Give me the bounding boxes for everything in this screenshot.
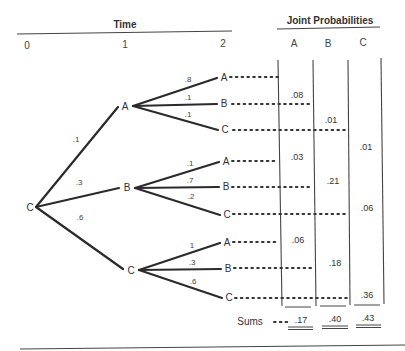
time-header-rule xyxy=(17,31,232,34)
stage2-c-prob-b: .3 xyxy=(189,258,196,267)
column-divider-bc xyxy=(348,60,350,305)
time-period-1: 1 xyxy=(122,39,128,50)
sum-b: .40 xyxy=(329,314,342,324)
branch-a-to-b xyxy=(133,104,217,106)
time-period-2: 2 xyxy=(220,38,226,49)
column-header-c: C xyxy=(359,37,366,48)
stage2-c-node-b: B xyxy=(225,263,232,274)
joint-bb: .21 xyxy=(327,176,340,186)
sum-a: .17 xyxy=(295,315,308,325)
branch-b-to-b xyxy=(135,187,219,188)
joint-ba: .03 xyxy=(291,152,304,162)
branch-a-to-a xyxy=(133,78,217,106)
joint-ca: .06 xyxy=(292,235,305,245)
column-header-b: B xyxy=(325,38,332,49)
branch-c-to-c xyxy=(139,270,222,298)
time-header: Time xyxy=(113,19,137,30)
time-period-0: 0 xyxy=(24,40,30,51)
joint-probabilities-header: Joint Probabilities xyxy=(287,15,374,26)
stage2-b-node-c: C xyxy=(223,209,230,220)
stage2-b-node-b: B xyxy=(223,181,230,192)
stage2-a-node-c: C xyxy=(221,124,228,135)
joint-cc: .36 xyxy=(361,290,374,300)
stage1-prob-c: .6 xyxy=(77,213,84,222)
stage2-b-prob-a: .1 xyxy=(187,159,194,168)
stage1-node-b: B xyxy=(124,182,131,193)
branch-c-to-a xyxy=(139,243,220,270)
stage2-b-prob-b: .7 xyxy=(187,176,194,185)
joint-header-rule xyxy=(277,27,380,29)
stage2-a-node-b: B xyxy=(221,98,228,109)
sums-label: Sums xyxy=(237,316,263,327)
stage2-c-prob-a: 1 xyxy=(190,241,195,250)
stage1-prob-b: .3 xyxy=(76,178,83,187)
joint-ac: .01 xyxy=(360,142,373,152)
column-divider-a-left xyxy=(278,60,282,306)
stage2-a-prob-b: .1 xyxy=(185,93,192,102)
stage2-a-prob-c: .1 xyxy=(185,110,192,119)
branch-b-to-c xyxy=(135,188,220,215)
stage2-b-node-a: A xyxy=(223,156,230,167)
stage2-a-node-a: A xyxy=(221,72,228,83)
stage2-c-node-c: C xyxy=(225,292,232,303)
stage2-c-prob-c: .6 xyxy=(190,277,197,286)
joint-aa: .08 xyxy=(291,90,304,100)
stage1-prob-a: .1 xyxy=(73,135,80,144)
stage1-node-c: C xyxy=(127,265,134,276)
root-node: C xyxy=(26,202,33,213)
column-divider-c-right xyxy=(381,58,384,304)
stage1-node-a: A xyxy=(122,101,129,112)
branch-a-to-c xyxy=(133,106,218,130)
sum-c: .43 xyxy=(362,313,375,323)
column-divider-ab xyxy=(313,60,316,306)
joint-cb: .18 xyxy=(329,258,342,268)
joint-ab: .01 xyxy=(325,115,338,125)
sums-double-underlines xyxy=(288,325,381,330)
stage2-c-node-a: A xyxy=(224,237,231,248)
column-header-a: A xyxy=(291,38,298,49)
branch-c-to-b xyxy=(139,269,221,270)
branch-b-to-a xyxy=(135,162,219,188)
joint-bc: .06 xyxy=(361,203,374,213)
stage2-a-prob-a: .8 xyxy=(185,75,192,84)
probability-tree-diagram: Time 0 1 2 Joint Probabilities A B C C A… xyxy=(0,0,405,351)
bottom-rule xyxy=(20,345,405,349)
stage2-b-prob-c: .2 xyxy=(188,192,195,201)
